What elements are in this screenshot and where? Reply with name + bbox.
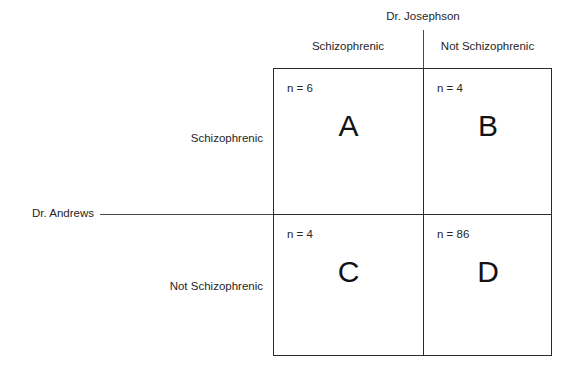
contingency-table-figure: Dr. Josephson Dr. Andrews Schizophrenic … (0, 0, 581, 370)
table-cell-b: n = 4 B (424, 69, 552, 214)
cell-label-a: A (274, 109, 423, 143)
row-rater-leader-line (100, 214, 273, 215)
cell-count-c: n = 4 (287, 227, 313, 241)
cell-label-b: B (424, 109, 552, 143)
column-rater-title: Dr. Josephson (343, 9, 503, 24)
cell-count-d: n = 86 (437, 227, 469, 241)
cell-label-c: C (274, 255, 423, 289)
table-cell-c: n = 4 C (274, 215, 423, 356)
cell-label-d: D (424, 255, 552, 289)
table-cell-a: n = 6 A (274, 69, 423, 214)
column-header-not-schizophrenic: Not Schizophrenic (423, 39, 552, 54)
row-rater-title: Dr. Andrews (0, 206, 94, 221)
table-cell-d: n = 86 D (424, 215, 552, 356)
row-header-not-schizophrenic: Not Schizophrenic (63, 279, 263, 294)
row-header-schizophrenic: Schizophrenic (63, 131, 263, 146)
cell-count-a: n = 6 (287, 81, 313, 95)
column-header-schizophrenic: Schizophrenic (273, 39, 423, 54)
cell-count-b: n = 4 (437, 81, 463, 95)
